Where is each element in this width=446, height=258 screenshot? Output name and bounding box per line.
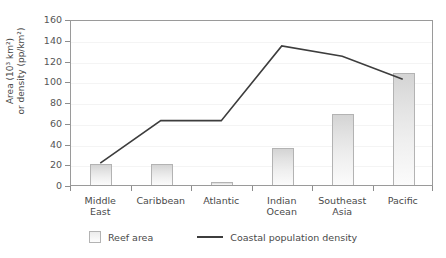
bar-swatch-icon — [89, 231, 101, 243]
y-tick-label: 100 — [44, 78, 62, 88]
legend-item-reef-area: Reef area — [89, 231, 153, 243]
y-tick-label: 80 — [50, 98, 62, 108]
x-tick-mark — [312, 186, 313, 191]
x-category-label: Pacific — [373, 195, 434, 206]
chart-legend: Reef area Coastal population density — [0, 231, 446, 243]
x-tick-mark — [191, 186, 192, 191]
x-tick-mark — [131, 186, 132, 191]
y-axis: Area (10³ km²) or density (pp/km²) 02040… — [0, 0, 70, 206]
y-tick-label: 0 — [56, 181, 62, 191]
y-tick-label: 140 — [44, 36, 62, 46]
x-axis: Middle EastCaribbeanAtlanticIndian Ocean… — [70, 186, 433, 232]
line-series-coastal-population-density — [70, 20, 433, 186]
x-tick-mark — [252, 186, 253, 191]
x-tick-mark — [373, 186, 374, 191]
y-tick-label: 40 — [50, 140, 62, 150]
x-tick-mark — [432, 186, 433, 191]
legend-item-coastal-population-density: Coastal population density — [197, 232, 357, 243]
x-category-label: Middle East — [70, 195, 131, 217]
x-category-label: Caribbean — [131, 195, 192, 206]
x-tick-mark — [70, 186, 71, 191]
y-tick-label: 160 — [44, 15, 62, 25]
chart-figure: Area (10³ km²) or density (pp/km²) 02040… — [0, 0, 446, 258]
x-category-label: Southeast Asia — [312, 195, 373, 217]
y-tick-label: 20 — [50, 161, 62, 171]
y-tick-label: 60 — [50, 119, 62, 129]
y-tick-label: 120 — [44, 57, 62, 67]
legend-label-reef-area: Reef area — [108, 232, 153, 243]
y-axis-title: Area (10³ km²) or density (pp/km²) — [5, 11, 27, 131]
x-category-label: Atlantic — [191, 195, 252, 206]
x-category-label: Indian Ocean — [252, 195, 313, 217]
line-swatch-icon — [197, 236, 223, 238]
legend-label-coastal-population-density: Coastal population density — [230, 232, 357, 243]
